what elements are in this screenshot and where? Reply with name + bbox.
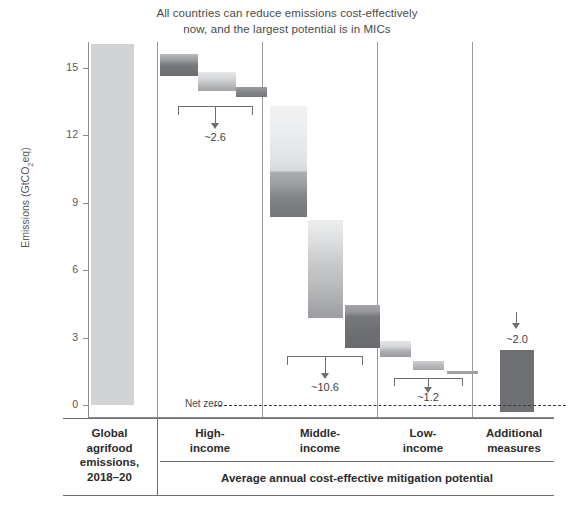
footer-label-table: Global agrifood emissions, 2018–20 High-… bbox=[0, 418, 574, 508]
footer-cell-global-agrifood: Global agrifood emissions, 2018–20 bbox=[62, 426, 157, 484]
y-axis-lower-line bbox=[88, 406, 89, 418]
y-axis-title-sub: 2 bbox=[26, 163, 35, 167]
footer-cell-global-agrifood-line-2: agrifood bbox=[62, 441, 157, 456]
y-tick-mark-12 bbox=[83, 135, 88, 136]
footer-cell-additional-measures-line-1: Additional bbox=[466, 426, 562, 441]
panel-divider-2 bbox=[262, 42, 263, 417]
bar-global-agrifood-total bbox=[91, 44, 134, 405]
bar-middle-income-3 bbox=[345, 305, 380, 348]
plot-area: 15 12 9 6 3 0 Emissions (GtCO2eq) bbox=[0, 0, 574, 420]
y-axis-title-prefix: Emissions (GtCO bbox=[19, 167, 31, 248]
footer-cell-high-income-line-1: High- bbox=[160, 426, 260, 441]
y-axis-title-suffix: eq) bbox=[19, 147, 31, 162]
y-tick-mark-3 bbox=[83, 338, 88, 339]
bar-high-income-3 bbox=[236, 87, 267, 97]
bar-high-income-1 bbox=[160, 54, 198, 76]
footer-rule-bottom bbox=[62, 495, 554, 496]
y-tick-label-3: 3 bbox=[52, 331, 78, 343]
bar-middle-income-2 bbox=[308, 220, 343, 318]
y-tick-label-15: 15 bbox=[52, 61, 78, 73]
net-zero-line bbox=[214, 405, 566, 406]
footer-cell-low-income-line-1: Low- bbox=[378, 426, 468, 441]
footer-cell-additional-measures-line-2: measures bbox=[466, 441, 562, 456]
annotation-additional: ~2.0 bbox=[487, 333, 547, 345]
y-tick-mark-0 bbox=[83, 405, 88, 406]
footer-cell-low-income-line-2: income bbox=[378, 441, 468, 456]
y-tick-mark-6 bbox=[83, 270, 88, 271]
panel-divider-4 bbox=[472, 42, 473, 417]
footer-cell-high-income: High- income bbox=[160, 426, 260, 455]
bar-middle-income-1 bbox=[270, 106, 307, 217]
footer-cell-middle-income: Middle- income bbox=[270, 426, 370, 455]
y-tick-label-12: 12 bbox=[52, 128, 78, 140]
chart-root: All countries can reduce emissions cost-… bbox=[0, 0, 574, 508]
y-axis-line bbox=[88, 42, 89, 406]
bar-additional-measures bbox=[500, 350, 534, 412]
bar-low-income-2 bbox=[413, 361, 444, 370]
y-tick-label-9: 9 bbox=[52, 196, 78, 208]
panel-divider-3 bbox=[377, 42, 378, 417]
footer-rule-mid bbox=[160, 461, 554, 462]
footer-group-caption: Average annual cost-effective mitigation… bbox=[160, 472, 554, 484]
annotation-middle-income: ~10.6 bbox=[294, 381, 356, 393]
arrow-stem-high-income bbox=[215, 106, 216, 124]
panel-divider-1 bbox=[157, 42, 158, 417]
footer-cell-global-agrifood-line-1: Global bbox=[62, 426, 157, 441]
footer-cell-global-agrifood-line-4: 2018–20 bbox=[62, 470, 157, 485]
arrow-head-middle-income bbox=[321, 373, 329, 379]
footer-cell-middle-income-line-1: Middle- bbox=[270, 426, 370, 441]
footer-rule-top bbox=[62, 418, 554, 419]
arrow-head-additional bbox=[512, 323, 520, 329]
arrow-head-high-income bbox=[211, 123, 219, 129]
footer-divider-left bbox=[157, 418, 158, 496]
y-axis-title: Emissions (GtCO2eq) bbox=[19, 123, 34, 273]
y-tick-label-0: 0 bbox=[52, 398, 78, 410]
footer-cell-middle-income-line-2: income bbox=[270, 441, 370, 456]
bar-low-income-1 bbox=[380, 341, 411, 357]
footer-cell-additional-measures: Additional measures bbox=[466, 426, 562, 455]
arrow-stem-middle-income bbox=[325, 356, 326, 374]
net-zero-label: Net zero bbox=[185, 398, 223, 409]
annotation-low-income: ~1.2 bbox=[399, 391, 457, 403]
y-tick-mark-9 bbox=[83, 203, 88, 204]
footer-cell-high-income-line-2: income bbox=[160, 441, 260, 456]
bar-high-income-2 bbox=[198, 72, 236, 91]
y-tick-mark-15 bbox=[83, 68, 88, 69]
footer-cell-low-income: Low- income bbox=[378, 426, 468, 455]
y-tick-label-6: 6 bbox=[52, 263, 78, 275]
bar-low-income-3 bbox=[447, 371, 478, 374]
footer-cell-global-agrifood-line-3: emissions, bbox=[62, 455, 157, 470]
annotation-high-income: ~2.6 bbox=[185, 131, 245, 143]
